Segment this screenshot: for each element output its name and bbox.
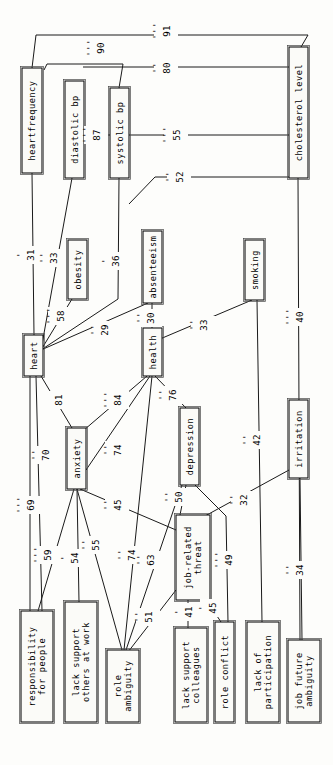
edge-anxiety-to-lack_support_others — [77, 489, 79, 602]
edge-smoking-to-lack_participation — [257, 300, 262, 622]
edge-heart-to-responsibility — [36, 376, 42, 611]
node-health[interactable]: health — [141, 326, 163, 377]
edge-label-e84: 84''' — [102, 391, 129, 409]
edge-label-e58: 58''' — [45, 307, 72, 325]
edge-value-e40: 40 — [294, 311, 305, 323]
edge-primes-e45a: '' — [102, 499, 113, 511]
node-responsibility[interactable]: responsibilityfor people — [19, 609, 54, 723]
node-absenteeism[interactable]: absenteeism — [141, 229, 163, 304]
node-systolic_bp[interactable]: systolic bp — [108, 86, 130, 179]
node-label-job_future_ambiguity: job future — [294, 652, 304, 709]
edge-label-e52: 52'' — [164, 168, 191, 186]
node-smoking[interactable]: smoking — [243, 238, 265, 301]
edge-value-e52: 52 — [174, 171, 185, 183]
edge-value-e33b: 33 — [198, 319, 209, 331]
edge-primes-e34: '' — [284, 564, 295, 576]
node-anxiety[interactable]: anxiety — [65, 426, 87, 490]
edge-primes-e36: ' — [100, 258, 111, 264]
edge-value-e90: 90 — [95, 42, 106, 54]
edge-value-e45b: 45 — [207, 602, 218, 614]
edge-label-e81: 81 — [46, 391, 70, 409]
node-role_conflict[interactable]: role conflict — [213, 620, 235, 723]
edge-value-e58: 58 — [55, 310, 66, 322]
node-label-job_future_ambiguity: ambiguity — [304, 655, 314, 707]
node-label-lack_support_colleagues: lack support — [181, 641, 191, 710]
edge-primes-e55: ''' — [161, 126, 172, 144]
edge-value-e74a: 74 — [112, 444, 123, 456]
node-label-lack_support_colleagues: colleagues — [191, 646, 201, 703]
edge-value-e87: 87 — [91, 129, 102, 141]
edge-primes-e90: ''' — [85, 39, 96, 57]
edge-label-e33b: 33'' — [188, 316, 215, 334]
node-label-obesity: obesity — [73, 249, 83, 289]
edge-label-e55: 55''' — [161, 126, 188, 144]
edge-cholesterol_level-to-heart — [129, 177, 289, 204]
edge-value-e55: 55 — [171, 129, 182, 141]
node-depression[interactable]: depression — [178, 406, 200, 486]
edge-label-e80: 80'' — [151, 59, 178, 77]
edge-label-e41: 41' — [173, 603, 200, 621]
node-label-anxiety: anxiety — [72, 438, 82, 478]
edge-value-e59: 59 — [42, 549, 53, 561]
edge-primes-e45b: ' — [197, 605, 208, 611]
node-label-role_ambiguity: ambiguity — [123, 660, 133, 712]
edge-label-e33a: 33'' — [38, 249, 65, 267]
edge-value-e76: 76 — [167, 389, 178, 401]
edge-label-e90: 90''' — [85, 39, 112, 57]
node-irritation[interactable]: irritation — [287, 398, 309, 479]
edge-label-e29: 29'' — [89, 321, 116, 339]
diagram-svg: heartfrequencydiastolic bpsystolic bpcho… — [0, 0, 333, 765]
edge-primes-e41: ' — [173, 609, 184, 615]
edge-value-e31: 31 — [25, 249, 36, 261]
edge-value-e91: 91 — [161, 25, 172, 37]
edge-label-e50: 50'' — [163, 488, 190, 506]
node-obesity[interactable]: obesity — [66, 238, 88, 300]
edge-value-e41: 41 — [183, 606, 194, 618]
edge-value-e36: 36 — [110, 255, 121, 267]
edge-label-e42: 42'' — [241, 431, 268, 449]
edge-primes-e29: '' — [89, 324, 100, 336]
node-label-job_related_threat: threat — [193, 540, 203, 574]
node-job_related_threat[interactable]: job-relatedthreat — [174, 513, 211, 601]
edge-primes-e54: ' — [59, 555, 70, 561]
edge-primes-e59: ''' — [32, 546, 43, 564]
node-label-absenteeism: absenteeism — [148, 236, 158, 299]
edge-primes-e55b: '' — [80, 539, 91, 551]
edge-value-e70: 70 — [40, 449, 51, 461]
node-label-depression: depression — [185, 418, 195, 475]
edge-value-e81: 81 — [53, 394, 64, 406]
node-label-irritation: irritation — [294, 410, 304, 467]
edge-label-e70: 70'' — [30, 446, 57, 464]
edge-value-e30: 30 — [145, 312, 156, 324]
node-label-heartfrequency: heartfrequency — [27, 80, 37, 160]
node-label-health: health — [148, 335, 158, 369]
edge-label-e63: 63'' — [135, 551, 162, 569]
edge-primes-e58: ''' — [45, 307, 56, 325]
edge-labels-layer: 91'''90'''80''87'''55'''52''31'33''58'''… — [15, 22, 311, 626]
edge-label-e40: 40''' — [284, 308, 311, 326]
node-cholesterol_level[interactable]: cholesterol level — [287, 45, 309, 179]
edge-value-e42: 42 — [251, 434, 262, 446]
edge-label-e76: 76'' — [157, 386, 184, 404]
edge-primes-e30: '' — [135, 312, 146, 324]
node-lack_support_others[interactable]: lack supportothers at work — [63, 600, 98, 723]
edge-value-e49: 49 — [223, 554, 234, 566]
node-lack_support_colleagues[interactable]: lack supportcolleagues — [173, 626, 208, 723]
edge-label-e69: 69''' — [15, 496, 42, 514]
edge-label-e34: 34'' — [284, 561, 311, 579]
path-diagram-canvas: heartfrequencydiastolic bpsystolic bpcho… — [0, 0, 333, 765]
edge-label-e36: 36' — [100, 252, 127, 270]
edge-label-e49: 49''' — [213, 551, 240, 569]
node-heartfrequency[interactable]: heartfrequency — [20, 66, 43, 174]
node-label-smoking: smoking — [250, 250, 260, 290]
edge-value-e29: 29 — [99, 324, 110, 336]
node-role_ambiguity[interactable]: roleambiguity — [105, 648, 140, 723]
edge-value-e34: 34 — [294, 564, 305, 576]
edge-value-e69: 69 — [25, 499, 36, 511]
edge-primes-e87: ''' — [81, 126, 92, 144]
node-job_future_ambiguity[interactable]: job futureambiguity — [286, 638, 321, 723]
node-lack_participation[interactable]: lack ofparticipation — [245, 620, 280, 723]
edge-label-e45b: 45' — [197, 599, 224, 617]
edge-primes-e49: ''' — [213, 551, 224, 569]
node-heart[interactable]: heart — [22, 333, 44, 377]
